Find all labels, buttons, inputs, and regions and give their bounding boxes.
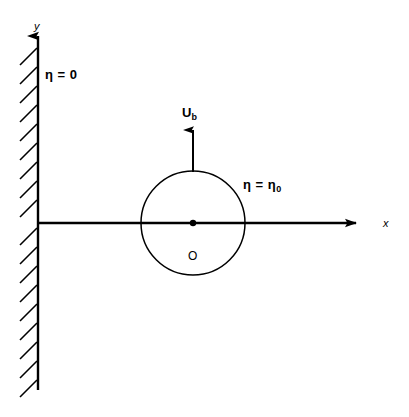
wall-boundary-condition-label: η = 0: [45, 67, 78, 82]
surface-bc-subscript: 0: [276, 184, 282, 194]
velocity-label: Ub: [182, 105, 197, 122]
x-axis-label: x: [382, 217, 389, 229]
velocity-symbol: U: [182, 105, 191, 120]
surface-bc-main: η = η: [243, 177, 276, 192]
origin-label: O: [188, 249, 197, 263]
y-axis-label: y: [33, 20, 41, 32]
svg-text:Ub: Ub: [182, 105, 197, 122]
figure-container: y x η = 0 η = η0 Ub O: [0, 0, 409, 417]
flow-diagram: y x η = 0 η = η0 Ub O: [0, 0, 409, 417]
svg-text:η = η0: η = η0: [243, 177, 282, 194]
origin-dot: [190, 220, 196, 226]
velocity-subscript: b: [191, 112, 197, 122]
wall-hatching: [20, 48, 37, 397]
surface-boundary-condition-label: η = η0: [243, 177, 282, 194]
